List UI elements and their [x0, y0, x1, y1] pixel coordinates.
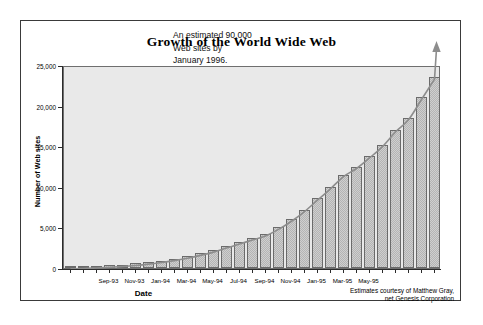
x-axis-tick [356, 269, 357, 273]
x-axis-tick [226, 269, 227, 273]
chart-figure: Growth of the World Wide Web An estimate… [20, 20, 461, 301]
x-axis-tick [174, 269, 175, 273]
x-axis-tick [304, 269, 305, 273]
x-axis-tick-label: Jan-95 [307, 277, 326, 284]
x-axis-tick-label: May-95 [358, 277, 379, 284]
x-axis-tick [252, 269, 253, 273]
x-axis-tick [343, 269, 344, 273]
x-axis-tick [382, 269, 383, 273]
y-axis-tick [58, 147, 62, 148]
x-axis-tick-label: Nov-94 [281, 277, 301, 284]
y-axis-tick-label: 20,000 [36, 103, 56, 110]
x-axis-tick [239, 269, 240, 273]
bar [338, 175, 350, 268]
x-axis-tick [161, 269, 162, 273]
x-axis-tick [265, 269, 266, 273]
x-axis-tick [200, 269, 201, 273]
x-axis-tick-label: Jul-94 [230, 277, 247, 284]
y-axis-title: Number of Web sites [33, 112, 42, 232]
x-axis-tick [96, 269, 97, 273]
y-axis-line [62, 66, 63, 270]
bar [416, 97, 428, 268]
plot-area [63, 66, 440, 269]
x-axis-tick [135, 269, 136, 273]
y-axis-tick [58, 66, 62, 67]
bar [429, 77, 441, 268]
y-axis-tick-label: 5,000 [40, 225, 56, 232]
source-credit: Estimates courtesy of Matthew Gray, net.… [244, 287, 454, 304]
bar [247, 238, 259, 268]
x-axis-tick-label: Jan-94 [151, 277, 170, 284]
x-axis-tick-label: Sep-94 [255, 277, 275, 284]
bar [234, 242, 246, 268]
x-axis-tick-label: Sep-93 [99, 277, 119, 284]
bar [156, 261, 168, 268]
bars-container [64, 67, 439, 268]
y-axis-tick [58, 188, 62, 189]
x-axis-tick [122, 269, 123, 273]
bar [117, 265, 129, 268]
bar [221, 246, 233, 268]
y-axis-tick [58, 228, 62, 229]
bar [143, 262, 155, 268]
bar [325, 187, 337, 268]
bar [182, 256, 194, 268]
bar [403, 118, 415, 268]
bar [208, 250, 220, 268]
bar [195, 253, 207, 268]
x-axis-tick [330, 269, 331, 273]
x-axis-tick-label: Mar-95 [333, 277, 353, 284]
bar [273, 227, 285, 268]
x-axis-tick [291, 269, 292, 273]
x-axis-tick [187, 269, 188, 273]
y-axis-tick-label: 25,000 [36, 63, 56, 70]
x-axis-tick-label: Nov-93 [125, 277, 145, 284]
bar [312, 198, 324, 268]
x-axis-tick [317, 269, 318, 273]
bar [91, 266, 103, 268]
x-axis-tick-label: Mar-94 [177, 277, 197, 284]
x-axis-tick [148, 269, 149, 273]
x-axis-tick [109, 269, 110, 273]
x-axis-tick [278, 269, 279, 273]
x-axis-tick [408, 269, 409, 273]
x-axis-tick [83, 269, 84, 273]
y-axis-tick-label: 0 [52, 266, 56, 273]
x-axis-tick [70, 269, 71, 273]
bar [104, 265, 116, 268]
bar [390, 130, 402, 268]
x-axis-tick [213, 269, 214, 273]
bar [351, 167, 363, 269]
bar [299, 210, 311, 268]
bar [260, 234, 272, 268]
y-axis-tick [58, 269, 62, 270]
y-axis-tick [58, 107, 62, 108]
y-axis-labels: 05,00010,00015,00020,00025,000 [21, 21, 62, 302]
bar [78, 266, 90, 268]
x-axis-tick-label: May-94 [202, 277, 223, 284]
x-axis-title: Date [21, 289, 266, 298]
x-axis-tick [395, 269, 396, 273]
x-axis-tick [369, 269, 370, 273]
bar [286, 219, 298, 268]
bar [169, 259, 181, 268]
x-axis-tick [421, 269, 422, 273]
bar [130, 263, 142, 268]
x-axis-tick [434, 269, 435, 273]
bar [65, 266, 77, 268]
estimate-annotation: An estimated 90,000 Web sites by January… [173, 29, 252, 67]
bar [377, 145, 389, 268]
bar [364, 156, 376, 268]
